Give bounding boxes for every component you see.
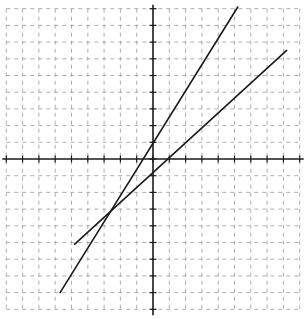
coordinate-graph (0, 0, 306, 319)
steep-line (60, 7, 238, 293)
plotted-lines (60, 7, 287, 293)
shallow-line (75, 50, 287, 244)
